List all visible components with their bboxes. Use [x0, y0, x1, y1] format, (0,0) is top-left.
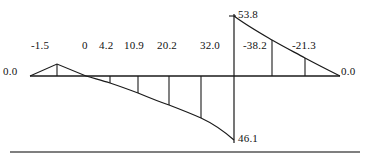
label--1-5: -1.5 [31, 40, 49, 51]
bending-moment-figure: -1.5 0 4.2 10.9 20.2 32.0 -38.2 -21.3 0.… [0, 0, 368, 162]
label--38-2: -38.2 [243, 40, 267, 51]
label-20-2: 20.2 [157, 40, 177, 51]
label-left-support-0-0: 0.0 [3, 66, 17, 77]
label-4-2: 4.2 [99, 40, 113, 51]
moment-curve-left-hogging [30, 64, 86, 76]
label-0: 0 [82, 40, 88, 51]
moment-curve-sagging [86, 76, 234, 140]
label--21-3: -21.3 [292, 40, 316, 51]
label-peak-46-1: 46.1 [238, 133, 258, 144]
label-right-support-0-0: 0.0 [341, 66, 355, 77]
diagram-canvas [0, 0, 368, 162]
label-10-9: 10.9 [124, 40, 144, 51]
label-32-0: 32.0 [200, 40, 220, 51]
label-peak-53-8: 53.8 [238, 9, 258, 20]
